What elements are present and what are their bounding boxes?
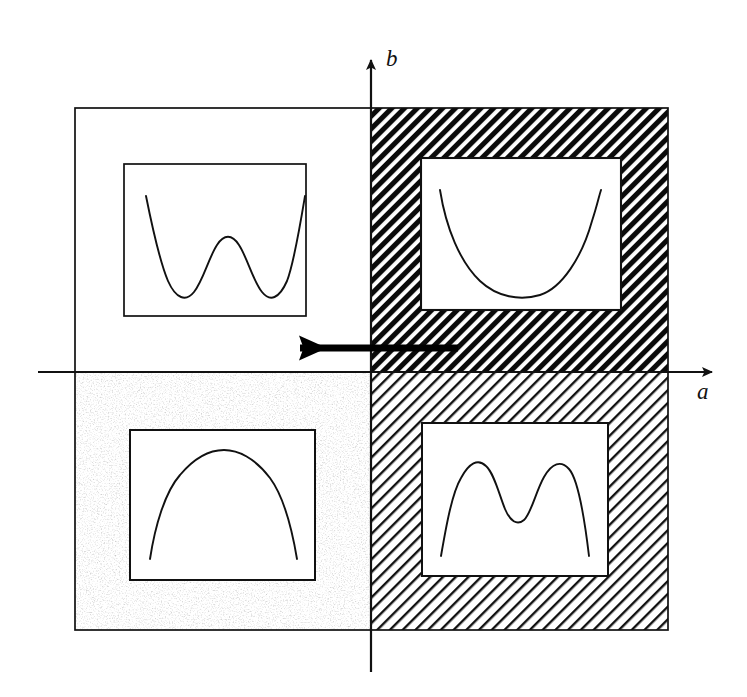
a-axis-label: a <box>697 379 709 404</box>
panel-top-left <box>124 164 306 316</box>
b-axis-label: b <box>386 46 398 71</box>
panel-bottom-left <box>130 430 315 580</box>
panel-bottom-right <box>422 423 608 576</box>
panel-bottom-left-box <box>130 430 315 580</box>
panel-top-right <box>421 158 621 310</box>
diagram-canvas: b a <box>0 0 747 697</box>
bifurcation-diagram-figure: b a <box>0 0 747 697</box>
